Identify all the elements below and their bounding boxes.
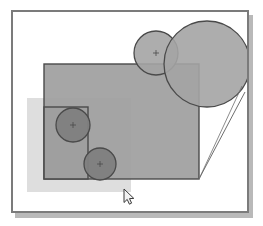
circle-large-top-right[interactable]	[164, 21, 249, 107]
drawing-canvas-frame[interactable]	[11, 10, 249, 213]
screenshot-root	[0, 0, 263, 226]
vector-shapes-svg[interactable]	[13, 12, 249, 213]
drawing-canvas-stage[interactable]	[13, 12, 247, 211]
